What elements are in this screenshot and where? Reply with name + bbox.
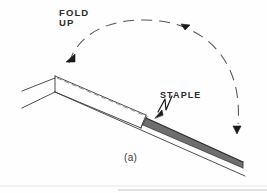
staple-label: STAPLE — [160, 91, 201, 100]
dashed-fold-line — [57, 78, 148, 117]
sheet-edge-upper-left — [22, 78, 55, 91]
fold-flap — [55, 76, 146, 128]
arc-arrow-left — [66, 54, 75, 62]
arrow-bottom-head — [233, 126, 241, 134]
page-artifact-lines — [0, 186, 267, 190]
band-fill — [143, 118, 243, 168]
sheet-edge-lower-left — [22, 92, 55, 108]
technical-drawing — [0, 0, 267, 193]
band-bottom-edge — [143, 125, 243, 168]
arrow-left-head — [66, 54, 75, 62]
sheet-surface-line — [55, 92, 245, 176]
flap-bottom-edge — [55, 92, 141, 128]
shaded-staple-band — [141, 117, 243, 168]
fold-hinge-dash — [57, 78, 148, 117]
fold-up-label: FOLD UP — [59, 8, 89, 28]
band-top-edge — [146, 118, 243, 162]
figure-container: FOLD UP STAPLE (a) — [0, 0, 267, 193]
flap-top-edge — [55, 76, 146, 115]
figure-caption: (a) — [124, 153, 137, 164]
arc-arrow-bottom — [233, 126, 241, 134]
